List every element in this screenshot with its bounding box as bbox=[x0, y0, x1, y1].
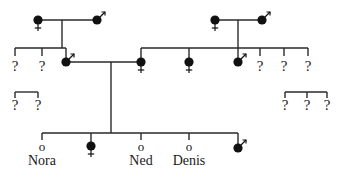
female-symbol-icon bbox=[184, 57, 193, 73]
unknown-child: ? bbox=[304, 97, 311, 113]
pedigree-diagram: ? ? ? ? ? ? ? ? ? ? o Nora o Ned o Denis bbox=[0, 0, 344, 182]
female-symbol-icon bbox=[136, 57, 145, 73]
unknown-child: ? bbox=[39, 58, 46, 74]
unknown-child: ? bbox=[324, 97, 331, 113]
name-denis: Denis bbox=[173, 153, 206, 168]
unknown-child: ? bbox=[281, 58, 288, 74]
pedigree-canvas: ? ? ? ? ? ? ? ? ? ? o Nora o Ned o Denis bbox=[0, 0, 344, 182]
unknown-child: ? bbox=[282, 97, 289, 113]
female-symbol-icon bbox=[33, 15, 42, 31]
female-symbol-icon bbox=[86, 141, 95, 157]
male-symbol-icon bbox=[92, 12, 105, 25]
male-symbol-icon bbox=[257, 12, 270, 25]
unknown-child: ? bbox=[12, 97, 19, 113]
male-symbol-icon bbox=[233, 54, 246, 67]
unknown-child: ? bbox=[12, 58, 19, 74]
male-symbol-icon bbox=[233, 140, 246, 153]
name-nora: Nora bbox=[28, 153, 57, 168]
female-symbol-icon bbox=[210, 15, 219, 31]
name-ned: Ned bbox=[129, 153, 152, 168]
open-symbol: o bbox=[138, 139, 145, 154]
connector-lines bbox=[15, 20, 327, 144]
unknown-child: ? bbox=[257, 58, 264, 74]
unknown-child: ? bbox=[305, 58, 312, 74]
open-symbol: o bbox=[186, 139, 193, 154]
male-symbol-icon bbox=[61, 54, 74, 67]
open-symbol: o bbox=[39, 139, 46, 154]
unknown-child: ? bbox=[35, 97, 42, 113]
